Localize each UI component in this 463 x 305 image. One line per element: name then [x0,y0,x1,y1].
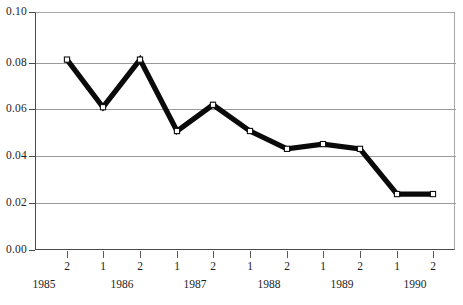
gridline [36,203,456,204]
x-axis-period-label: 2 [201,260,225,272]
x-axis-tick [287,251,288,258]
x-axis-year-label-1987: 1987 [172,278,218,290]
y-axis-tick [29,12,35,13]
x-axis-period-label: 2 [348,260,372,272]
gridline [36,109,456,110]
x-axis-tick [360,251,361,258]
x-axis-tick [397,251,398,258]
x-axis-tick [250,251,251,258]
x-axis-period-label: 1 [385,260,409,272]
x-axis-period-label: 2 [275,260,299,272]
y-axis-label-008: 0.08 [0,56,27,68]
y-axis-label-002: 0.02 [0,196,27,208]
x-axis-year-label-1986: 1986 [99,278,145,290]
x-axis-period-label: 1 [311,260,335,272]
x-axis-tick [103,251,104,258]
gridline [36,156,456,157]
x-axis-tick [67,251,68,258]
line-chart: 0.10 0.08 0.06 0.04 0.02 0.00 2 1 2 1 2 … [0,0,463,305]
x-axis-tick [140,251,141,258]
x-axis-period-label: 2 [421,260,445,272]
plot-area [35,12,455,250]
y-axis-label-004: 0.04 [0,149,27,161]
x-axis-period-label: 2 [55,260,79,272]
x-axis-period-label: 2 [128,260,152,272]
y-axis-label-000: 0.00 [0,243,27,255]
x-axis-tick [433,251,434,258]
y-axis-tick [29,63,35,64]
y-axis-tick [29,109,35,110]
x-axis-period-label: 1 [238,260,262,272]
x-axis-period-label: 1 [165,260,189,272]
x-axis-tick [213,251,214,258]
x-axis-year-label-1988: 1988 [246,278,292,290]
y-axis-label-010: 0.10 [0,5,27,17]
x-axis-year-label-1990: 1990 [392,278,438,290]
gridline [36,63,456,64]
x-axis-period-label: 1 [91,260,115,272]
x-axis-year-label-1989: 1989 [319,278,365,290]
y-axis-label-006: 0.06 [0,102,27,114]
x-axis-tick [323,251,324,258]
y-axis-tick [29,156,35,157]
y-axis-tick [29,250,35,251]
y-axis-tick [29,203,35,204]
x-axis-tick [177,251,178,258]
x-axis-year-label-1985: 1985 [21,278,67,290]
